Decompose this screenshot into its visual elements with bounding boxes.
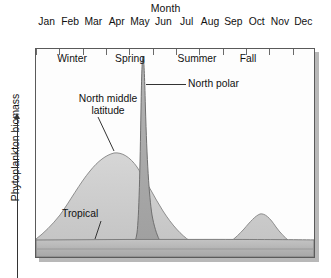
annotation-north-middle-leader (96, 117, 126, 157)
annotation-north-middle-latitude: North middle latitude (60, 93, 156, 117)
plot-area: Winter Spring Summer Fall North polar No… (35, 48, 315, 258)
axis-tick (314, 49, 315, 55)
annotation-tropical: Tropical (62, 208, 98, 220)
annotation-line-1: North middle (79, 93, 137, 104)
series-tropical-band (36, 239, 314, 257)
month-label-row: Jan Feb Mar Apr May Jun Jul Aug Sep Oct … (35, 15, 315, 29)
season-label-fall: Fall (203, 52, 293, 65)
y-axis-arrow-icon (17, 118, 18, 278)
annotation-line-2: latitude (91, 105, 124, 116)
chart-svg (36, 49, 314, 257)
chart-title: Month (0, 2, 331, 14)
y-axis-label: Phytoplankton biomass (10, 63, 21, 233)
annotation-north-polar: North polar (188, 78, 239, 90)
annotation-north-polar-leader (146, 84, 186, 85)
month-label: Dec (283, 15, 323, 28)
annotation-tropical-leader (92, 221, 112, 243)
y-axis-group: Phytoplankton biomass (0, 60, 22, 250)
